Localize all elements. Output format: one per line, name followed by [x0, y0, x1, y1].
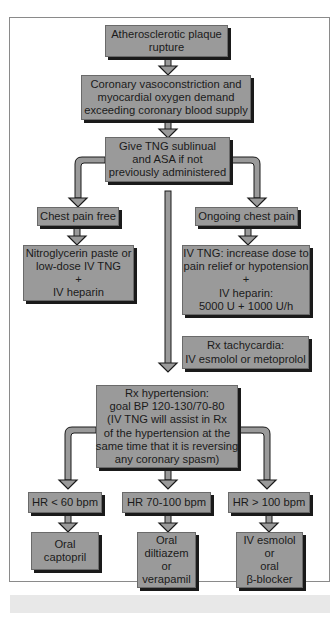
box-iv-esmolol: IV esmolol or oral β-blocker — [236, 532, 303, 588]
box-ongoing-chest-pain: Ongoing chest pain — [195, 207, 298, 226]
box-oral-diltiazem: Oral diltiazem or verapamil — [137, 532, 196, 588]
box-plaque-rupture: Atherosclerotic plaque rupture — [105, 25, 228, 57]
box-iv-tng: IV TNG: increase dose to pain relief or … — [182, 245, 310, 315]
caption-bar — [10, 595, 330, 613]
box-coronary-vasoconstriction: Coronary vasoconstriction and myocardial… — [81, 75, 251, 120]
box-give-tng: Give TNG sublinual and ASA if not previo… — [105, 137, 230, 182]
box-rx-tachycardia: Rx tachycardia: IV esmolol or metoprolol — [182, 336, 309, 369]
box-hr-above-100: HR > 100 bpm — [228, 492, 310, 513]
box-chest-pain-free: Chest pain free — [37, 207, 119, 226]
box-oral-captopril: Oral captopril — [31, 532, 99, 570]
box-hr-70-100: HR 70-100 bpm — [122, 492, 211, 513]
box-hr-below-60: HR < 60 bpm — [28, 492, 102, 513]
box-rx-hypertension: Rx hypertension: goal BP 120-130/70-80 (… — [96, 385, 238, 468]
box-nitroglycerin: Nitroglycerin paste or low-dose IV TNG +… — [23, 245, 134, 301]
